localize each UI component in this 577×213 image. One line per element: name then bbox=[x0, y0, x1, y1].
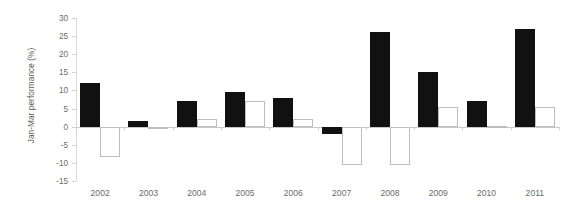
bar-series-hollow-2002 bbox=[100, 127, 120, 158]
x-tick-label: 2008 bbox=[380, 188, 399, 198]
x-tick-label: 2009 bbox=[429, 188, 448, 198]
x-tick-mark bbox=[76, 127, 77, 130]
bar-series-hollow-2010 bbox=[487, 126, 507, 128]
bar-series-filled-2010 bbox=[467, 101, 487, 126]
bar-series-hollow-2003 bbox=[148, 127, 168, 129]
x-tick-label: 2006 bbox=[284, 188, 303, 198]
y-tick-mark bbox=[72, 109, 76, 110]
x-tick-mark bbox=[462, 127, 463, 130]
y-axis-tick-labels: 302520151050-5-10-15 bbox=[40, 18, 72, 181]
x-tick-label: 2010 bbox=[477, 188, 496, 198]
bar-series-hollow-2011 bbox=[535, 107, 555, 127]
y-tick-label: -10 bbox=[56, 158, 68, 167]
bar-series-hollow-2005 bbox=[245, 101, 265, 126]
y-tick-label: 15 bbox=[59, 68, 68, 77]
y-tick-mark bbox=[72, 90, 76, 91]
bar-series-filled-2009 bbox=[418, 72, 438, 126]
x-tick-label: 2003 bbox=[139, 188, 158, 198]
chart-page: Jan-Mar performance (%) 302520151050-5-1… bbox=[0, 0, 577, 213]
x-tick-mark bbox=[414, 127, 415, 130]
x-tick-mark bbox=[173, 127, 174, 130]
x-tick-mark bbox=[318, 127, 319, 130]
y-axis-line bbox=[76, 18, 77, 181]
x-tick-mark bbox=[366, 127, 367, 130]
bar-series-filled-2006 bbox=[273, 98, 293, 127]
y-tick-label: 20 bbox=[59, 50, 68, 59]
y-tick-label: -5 bbox=[61, 140, 68, 149]
x-axis-tick-labels: 2002200320042005200620072008200920102011 bbox=[76, 188, 559, 208]
x-tick-label: 2007 bbox=[332, 188, 351, 198]
x-tick-mark bbox=[124, 127, 125, 130]
bar-series-filled-2005 bbox=[225, 92, 245, 126]
y-tick-label: 10 bbox=[59, 86, 68, 95]
y-tick-mark bbox=[72, 54, 76, 55]
x-tick-mark bbox=[269, 127, 270, 130]
bar-series-hollow-2009 bbox=[438, 107, 458, 127]
y-tick-mark bbox=[72, 145, 76, 146]
y-tick-label: 30 bbox=[59, 14, 68, 23]
y-tick-label: -15 bbox=[56, 177, 68, 186]
y-tick-mark bbox=[72, 163, 76, 164]
bar-series-filled-2007 bbox=[322, 127, 342, 134]
y-tick-mark bbox=[72, 18, 76, 19]
plot-area bbox=[76, 18, 559, 181]
x-tick-mark bbox=[559, 127, 560, 130]
y-axis-title-label: Jan-Mar performance (%) bbox=[28, 47, 37, 143]
bar-series-filled-2003 bbox=[128, 121, 148, 126]
y-tick-label: 5 bbox=[63, 104, 68, 113]
y-tick-mark bbox=[72, 36, 76, 37]
bar-series-hollow-2006 bbox=[293, 119, 313, 126]
x-tick-label: 2011 bbox=[526, 188, 544, 198]
bar-series-filled-2011 bbox=[515, 29, 535, 127]
y-tick-label: 0 bbox=[63, 122, 68, 131]
y-tick-label: 25 bbox=[59, 32, 68, 41]
bar-series-hollow-2007 bbox=[342, 127, 362, 165]
bar-series-hollow-2004 bbox=[197, 119, 217, 126]
bar-series-filled-2002 bbox=[80, 83, 100, 126]
x-tick-mark bbox=[511, 127, 512, 130]
bar-series-filled-2004 bbox=[177, 101, 197, 126]
y-tick-mark bbox=[72, 181, 76, 182]
bar-series-hollow-2008 bbox=[390, 127, 410, 165]
y-tick-mark bbox=[72, 72, 76, 73]
x-tick-label: 2004 bbox=[187, 188, 206, 198]
bar-series-filled-2008 bbox=[370, 32, 390, 126]
x-tick-label: 2005 bbox=[235, 188, 254, 198]
x-tick-label: 2002 bbox=[91, 188, 110, 198]
x-tick-mark bbox=[221, 127, 222, 130]
